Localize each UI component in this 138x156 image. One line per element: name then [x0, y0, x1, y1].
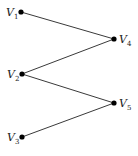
vertex-dot — [111, 36, 116, 41]
nodes-group: V1V2V3V4V5 — [6, 6, 132, 146]
vertex-label: V3 — [7, 131, 19, 146]
vertex-label-subscript: 4 — [127, 40, 132, 48]
edge-v2-v4 — [22, 39, 114, 74]
vertex-label-subscript: 1 — [14, 13, 18, 21]
vertex-dot — [19, 71, 24, 76]
vertex-label-subscript: 5 — [127, 104, 131, 112]
edge-v1-v4 — [21, 12, 114, 39]
edge-v2-v5 — [22, 74, 114, 103]
vertex-label: V5 — [119, 97, 131, 112]
edges-group — [21, 12, 114, 137]
node-v1: V1 — [6, 6, 24, 21]
vertex-label-subscript: 3 — [15, 138, 19, 146]
vertex-label: V2 — [7, 68, 19, 83]
node-v3: V3 — [7, 131, 25, 146]
vertex-label: V4 — [119, 33, 132, 48]
node-v4: V4 — [111, 33, 132, 48]
vertex-label-subscript: 2 — [15, 75, 19, 83]
vertex-label: V1 — [6, 6, 18, 21]
node-v2: V2 — [7, 68, 25, 83]
vertex-dot — [111, 100, 116, 105]
node-v5: V5 — [111, 97, 131, 112]
vertex-dot — [19, 134, 24, 139]
graph-diagram: V1V2V3V4V5 — [0, 0, 138, 156]
vertex-dot — [18, 9, 23, 14]
edge-v3-v5 — [22, 103, 114, 137]
